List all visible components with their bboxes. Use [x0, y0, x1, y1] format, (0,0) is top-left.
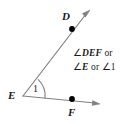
conjunction-or-2: or — [91, 62, 99, 72]
angle-symbol-icon-2: ∠ — [73, 61, 82, 72]
ray-ED-arrowhead — [82, 10, 90, 17]
angle-name-E: E — [82, 62, 88, 72]
angle-symbol-icon-3: ∠ — [102, 61, 111, 72]
angle-name-line-2: ∠E or ∠1 — [73, 60, 132, 74]
ray-EF-arrowhead — [92, 101, 100, 106]
angle-arc — [38, 80, 45, 99]
point-label-F: F — [68, 107, 75, 118]
angle-name-line-1: ∠DEF or — [73, 46, 132, 60]
angle-name-DEF: DEF — [82, 48, 102, 58]
angle-diagram-figure: D E F 1 ∠DEF or ∠E or ∠1 — [0, 0, 132, 125]
ray-EF-line — [23, 96, 95, 103]
point-label-E: E — [8, 90, 15, 101]
point-dot-F — [69, 96, 75, 102]
conjunction-or-1: or — [104, 48, 112, 58]
angle-names-annotation: ∠DEF or ∠E or ∠1 — [73, 46, 132, 74]
angle-symbol-icon: ∠ — [73, 47, 82, 58]
angle-name-1: 1 — [111, 62, 116, 72]
point-dot-D — [69, 26, 75, 32]
angle-number-label: 1 — [33, 84, 38, 94]
point-label-D: D — [62, 11, 70, 22]
